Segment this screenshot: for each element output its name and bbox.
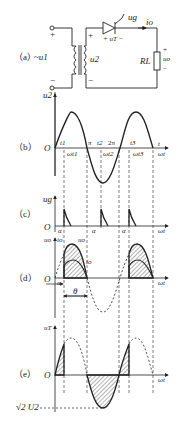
panel-a-label: （a） [14, 53, 36, 62]
wt-axis-label: ωt [158, 151, 165, 158]
output-plus: + [163, 47, 167, 54]
panel-b-label: （b） [14, 143, 37, 152]
ug-pulse-1 [64, 209, 71, 226]
uT-reverse [87, 375, 119, 408]
origin-label: O [44, 144, 51, 153]
alpha-label-d: α [57, 280, 61, 287]
tick-wt1: ωt1 [67, 151, 77, 158]
source-label: ~u1 [34, 53, 48, 62]
peak-voltage-label: √2 U2 [16, 403, 39, 412]
tick-t2: t2 [97, 140, 102, 147]
origin-label-e: O [44, 371, 51, 380]
primary-coil [74, 46, 76, 74]
alpha-1: α [58, 228, 62, 235]
panel-e-label: （e） [14, 370, 36, 379]
alpha-2: α [92, 228, 96, 235]
gate-label: ug [128, 13, 137, 22]
origin-label-d: O [44, 275, 51, 284]
panel-b-plot [55, 92, 168, 183]
load-resistor [154, 52, 160, 70]
minus-sign: − [50, 76, 55, 85]
output-label: uo [163, 56, 170, 63]
thyristor-voltage-label: + uT − [103, 36, 123, 43]
uo-axis-label: uo [44, 237, 51, 244]
wt-axis-label-c: ωt [158, 228, 165, 235]
uT-forward-1 [55, 344, 64, 375]
load-label: RL [140, 57, 151, 66]
circuit-schematic [50, 14, 160, 90]
secondary-label: u2 [90, 55, 99, 64]
tick-t3: t3 [130, 140, 135, 147]
minus-sign-2: − [88, 76, 93, 85]
panel-e-plot [40, 326, 168, 412]
plus-sign-2: + [88, 31, 93, 40]
tick-t1: t1 [60, 140, 65, 147]
t-axis-label: t [158, 141, 160, 148]
thyristor [103, 22, 115, 34]
io-axis-label: io [57, 237, 62, 244]
wt-axis-label-d: ωt [158, 280, 165, 287]
uT-axis-label: uT [44, 325, 51, 332]
secondary-coil [84, 46, 86, 74]
theta-label: θ [73, 287, 77, 296]
u2-dashed [87, 254, 129, 312]
ug-axis-label: ug [43, 195, 52, 204]
panel-c-label: （c） [14, 210, 36, 219]
tick-pi: π [88, 140, 92, 147]
panel-d-label: （d） [14, 274, 37, 283]
uo-curve-label: uo [78, 237, 85, 244]
u2-axis-label: u2 [43, 91, 52, 100]
u2-curve [55, 112, 153, 183]
tick-2pi: 2π [108, 140, 115, 147]
tick-wt3: ωt3 [133, 151, 143, 158]
uT-forward-2 [119, 344, 129, 375]
output-minus: − [163, 66, 167, 73]
panel-c-plot [55, 196, 168, 232]
ug-pulse-3 [129, 209, 136, 226]
gate-lead [115, 14, 124, 24]
origin-label-c: O [44, 223, 51, 232]
plus-sign: + [50, 30, 55, 39]
current-label: io [146, 18, 153, 27]
tick-wt2: ωt2 [103, 151, 113, 158]
io-curve-label: io [86, 259, 91, 266]
wt-axis-label-e: ωt [158, 377, 165, 384]
ug-pulse-2 [101, 209, 108, 226]
alpha-3: α [122, 228, 126, 235]
